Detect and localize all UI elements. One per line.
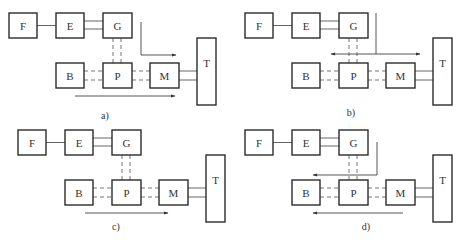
component-e: E [292, 13, 320, 38]
component-g: G [339, 13, 368, 38]
component-g: G [112, 130, 141, 155]
component-e: E [56, 13, 84, 38]
component-label: F [29, 137, 35, 149]
component-label: G [350, 20, 358, 32]
panel-b-components: FEGBPMT [245, 13, 452, 105]
panels-group: FEGBPMTa)FEGBPMTb)FEGBPMTc)FEGBPMTd) [9, 13, 452, 233]
component-label: M [396, 70, 406, 82]
component-label: F [20, 20, 26, 32]
component-p: P [112, 180, 141, 205]
component-label: E [76, 137, 83, 149]
component-label: G [114, 20, 122, 32]
component-e: E [292, 130, 320, 155]
component-label: P [350, 187, 356, 199]
component-label: G [123, 137, 131, 149]
component-m: M [386, 63, 415, 88]
component-label: P [350, 70, 356, 82]
power-flow-arrow [141, 22, 176, 55]
component-f: F [245, 13, 273, 38]
component-f: F [9, 13, 37, 38]
component-box [197, 38, 216, 105]
component-t: T [206, 155, 225, 222]
panel-label: c) [112, 221, 120, 233]
component-p: P [339, 63, 368, 88]
component-b: B [292, 180, 320, 205]
panel-c-components: FEGBPMT [18, 130, 225, 222]
component-label: P [114, 70, 120, 82]
component-label: B [66, 70, 73, 82]
panel-c: FEGBPMTc) [18, 130, 225, 233]
component-label: T [203, 57, 210, 69]
component-label: B [75, 187, 82, 199]
component-f: F [18, 130, 46, 155]
component-m: M [150, 63, 179, 88]
component-label: M [396, 187, 406, 199]
component-label: F [256, 137, 262, 149]
component-box [206, 155, 225, 222]
component-m: M [159, 180, 188, 205]
panel-a-components: FEGBPMT [9, 13, 216, 105]
component-label: B [302, 70, 309, 82]
component-label: T [439, 174, 446, 186]
component-p: P [339, 180, 368, 205]
powertrain-diagram: FEGBPMTa)FEGBPMTb)FEGBPMTc)FEGBPMTd) [0, 0, 458, 243]
component-label: M [160, 70, 170, 82]
component-b: B [292, 63, 320, 88]
component-box [433, 38, 452, 105]
panel-label: d) [362, 221, 370, 233]
component-t: T [433, 38, 452, 105]
component-p: P [103, 63, 132, 88]
component-t: T [433, 155, 452, 222]
component-b: B [56, 63, 84, 88]
panel-a: FEGBPMTa) [9, 13, 216, 122]
component-g: G [103, 13, 132, 38]
panel-d: FEGBPMTd) [245, 130, 452, 233]
panel-label: b) [347, 107, 355, 119]
component-e: E [65, 130, 93, 155]
component-label: T [439, 57, 446, 69]
component-label: F [256, 20, 262, 32]
component-label: M [169, 187, 179, 199]
component-label: T [212, 174, 219, 186]
component-m: M [386, 180, 415, 205]
panel-d-components: FEGBPMT [245, 130, 452, 222]
component-label: E [303, 137, 310, 149]
component-label: E [303, 20, 310, 32]
panel-b: FEGBPMTb) [245, 13, 452, 119]
component-label: P [123, 187, 129, 199]
component-label: G [350, 137, 358, 149]
component-f: F [245, 130, 273, 155]
component-box [433, 155, 452, 222]
component-g: G [339, 130, 368, 155]
component-b: B [65, 180, 93, 205]
panel-label: a) [101, 110, 109, 122]
figure-canvas: FEGBPMTa)FEGBPMTb)FEGBPMTc)FEGBPMTd) [0, 0, 458, 243]
component-t: T [197, 38, 216, 105]
component-label: B [302, 187, 309, 199]
component-label: E [67, 20, 74, 32]
